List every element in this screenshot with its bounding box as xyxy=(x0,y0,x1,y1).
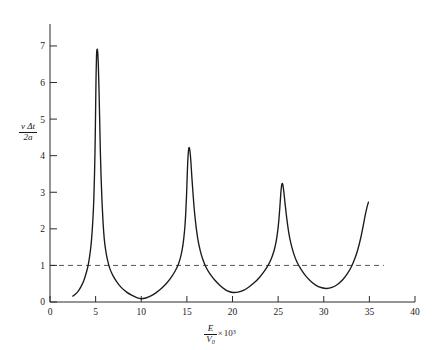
x-axis-label: E V0 ×103 xyxy=(160,324,280,345)
chart-plot: 051015202530354001234567 xyxy=(0,0,438,350)
x-tick-label: 30 xyxy=(319,307,329,317)
x-tick-label: 25 xyxy=(273,307,283,317)
y-tick-label: 3 xyxy=(40,188,45,198)
y-tick-label: 6 xyxy=(40,78,45,88)
data-curve-group xyxy=(73,49,369,299)
x-axis-label-fraction: E V0 xyxy=(204,324,217,345)
x-axis-label-denominator: V0 xyxy=(204,335,217,345)
figure-container: 051015202530354001234567 v Δt 2a E V0 ×1… xyxy=(0,0,438,350)
y-tick-label: 1 xyxy=(40,261,45,271)
x-tick-label: 20 xyxy=(228,307,238,317)
y-axis-label-denominator: 2a xyxy=(19,133,37,143)
x-tick-label: 10 xyxy=(137,307,147,317)
y-tick-label: 4 xyxy=(40,151,45,161)
x-tick-label: 15 xyxy=(182,307,192,317)
y-axis-label: v Δt 2a xyxy=(6,122,50,142)
x-tick-label: 35 xyxy=(365,307,375,317)
y-tick-label: 0 xyxy=(40,297,45,307)
x-axis-label-exponent: 3 xyxy=(233,329,236,335)
y-tick-label: 2 xyxy=(40,224,45,234)
x-tick-label: 40 xyxy=(410,307,420,317)
axes-group xyxy=(50,24,415,302)
x-tick-label: 0 xyxy=(48,307,53,317)
x-tick-label: 5 xyxy=(93,307,98,317)
x-axis-label-base: 10 xyxy=(224,328,233,338)
x-axis-label-v-subscript: 0 xyxy=(212,338,215,344)
y-tick-label: 7 xyxy=(40,41,45,51)
tick-marks-group xyxy=(50,46,415,302)
tick-labels-group: 051015202530354001234567 xyxy=(40,41,420,317)
y-axis-label-fraction: v Δt 2a xyxy=(19,122,37,142)
y-axis-label-delta-t: Δt xyxy=(27,121,35,131)
x-axis-label-times: × xyxy=(217,328,224,338)
data-series-curve xyxy=(73,49,369,299)
y-axis-label-v: v xyxy=(21,121,25,131)
